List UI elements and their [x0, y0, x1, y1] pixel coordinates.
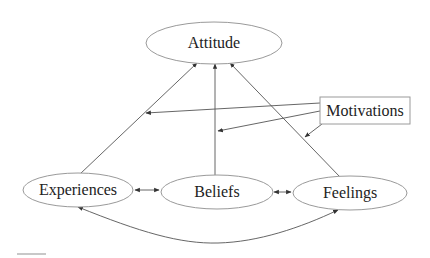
edge-experiences-feelings-curve [78, 207, 338, 243]
node-motivations: Motivations [320, 97, 410, 124]
edge-motivations-to-beliefs-edge [218, 111, 320, 131]
node-beliefs-label: Beliefs [194, 183, 239, 200]
node-attitude: Attitude [146, 22, 282, 64]
edge-motivations-to-feelings-edge [305, 124, 322, 137]
node-feelings: Feelings [293, 176, 407, 210]
node-beliefs: Beliefs [161, 175, 273, 209]
node-experiences: Experiences [23, 173, 133, 207]
attitude-model-diagram: Attitude Experiences Beliefs Feelings Mo… [0, 0, 430, 258]
node-motivations-label: Motivations [326, 102, 403, 119]
node-attitude-label: Attitude [188, 34, 240, 51]
edge-experiences-to-attitude [80, 63, 197, 174]
edge-motivations-to-experiences-edge [146, 103, 320, 113]
node-feelings-label: Feelings [323, 184, 377, 202]
node-experiences-label: Experiences [39, 181, 117, 199]
